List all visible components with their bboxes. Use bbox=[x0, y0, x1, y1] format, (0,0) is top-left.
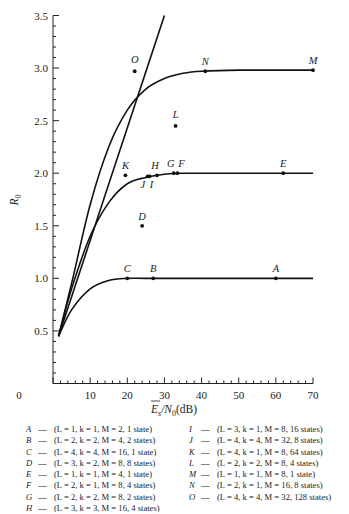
legend-key: O bbox=[189, 492, 201, 503]
point-label-O: O bbox=[131, 54, 139, 65]
legend-item-B: B—(L = 2, k = 2, M = 4, 2 states) bbox=[26, 435, 160, 446]
legend-text: (L = 4, k = 1, M = 8, 64 states) bbox=[217, 447, 323, 458]
point-label-N: N bbox=[201, 56, 210, 67]
legend-item-E: E—(L = 1, k = 1, M = 4, 1 state) bbox=[26, 469, 160, 480]
x-tick-label: 60 bbox=[270, 389, 282, 401]
legend-item-L: L—(L = 2, k = 2, M = 8, 4 states) bbox=[189, 458, 331, 469]
legend-text: (L = 2, k = 1, M = 16, 8 states) bbox=[217, 480, 323, 491]
legend-key: C bbox=[26, 447, 38, 458]
y-tick-label: 3.0 bbox=[34, 62, 48, 74]
x-tick-label: 50 bbox=[233, 389, 245, 401]
legend-item-N: N—(L = 2, k = 1, M = 16, 8 states) bbox=[189, 480, 331, 491]
legend-text: (L = 4, k = 4, M = 32, 128 states) bbox=[217, 492, 331, 503]
point-A bbox=[274, 276, 278, 280]
legend-key: H bbox=[26, 503, 38, 514]
point-label-C: C bbox=[124, 263, 132, 274]
legend-key: I bbox=[189, 424, 201, 435]
legend-text: (L = 1, k = 1, M = 8, 1 state) bbox=[217, 469, 315, 480]
legend-dash: — bbox=[38, 424, 54, 435]
legend-dash: — bbox=[38, 447, 54, 458]
point-J bbox=[146, 174, 150, 178]
x-axis-title: Es/N0(dB) bbox=[150, 401, 197, 418]
data-points: ABCDEFGHIJKLMNO bbox=[121, 54, 319, 280]
point-K bbox=[124, 173, 128, 177]
curve-2 bbox=[59, 173, 313, 336]
x-tick-label: 20 bbox=[122, 389, 134, 401]
x-tick-label: 30 bbox=[159, 389, 171, 401]
legend-item-I: I—(L = 3, k = 1, M = 8, 16 states) bbox=[189, 424, 331, 435]
point-F bbox=[176, 171, 180, 175]
legend-dash: — bbox=[201, 424, 217, 435]
tick-labels: 0.51.01.52.02.53.03.5010203040506070 bbox=[16, 10, 319, 402]
y-tick-label: 0.5 bbox=[34, 325, 48, 337]
point-O bbox=[133, 69, 137, 73]
point-label-G: G bbox=[167, 158, 175, 169]
legend-right: I—(L = 3, k = 1, M = 8, 16 states)J—(L =… bbox=[189, 424, 331, 503]
y-tick-label: 1.5 bbox=[34, 220, 48, 232]
legend-text: (L = 2, k = 2, M = 8, 4 states) bbox=[217, 458, 318, 469]
legend-dash: — bbox=[201, 469, 217, 480]
legend-item-J: J—(L = 4, k = 4, M = 32, 8 states) bbox=[189, 435, 331, 446]
point-E bbox=[281, 171, 285, 175]
legend-text: (L = 2, k = 2, M = 8, 2 states) bbox=[54, 492, 155, 503]
point-label-A: A bbox=[272, 263, 280, 274]
legend-item-D: D—(L = 3, k = 2, M = 8, 8 states) bbox=[26, 458, 160, 469]
y-tick-label: 1.0 bbox=[34, 272, 48, 284]
legend-key: L bbox=[189, 458, 201, 469]
legend-key: N bbox=[189, 480, 201, 491]
legend-text: (L = 4, k = 4, M = 16, 1 state) bbox=[54, 447, 156, 458]
svg-text:Es/N0(dB): Es/N0(dB) bbox=[150, 403, 197, 418]
x-tick-label: 40 bbox=[196, 389, 208, 401]
point-label-M: M bbox=[308, 55, 319, 66]
point-label-E: E bbox=[279, 158, 287, 169]
legend-key: D bbox=[26, 458, 38, 469]
point-M bbox=[311, 68, 315, 72]
legend-text: (L = 3, k = 1, M = 8, 16 states) bbox=[217, 424, 323, 435]
point-H bbox=[155, 173, 159, 177]
legend-dash: — bbox=[38, 458, 54, 469]
y-tick-label: 2.5 bbox=[34, 115, 48, 127]
point-label-K: K bbox=[121, 160, 130, 171]
legend-item-M: M—(L = 1, k = 1, M = 8, 1 state) bbox=[189, 469, 331, 480]
legend-text: (L = 4, k = 4, M = 32, 8 states) bbox=[217, 435, 323, 446]
point-label-B: B bbox=[150, 263, 157, 274]
legend-item-A: A—(L = 1, k = 1, M = 2, 1 state) bbox=[26, 424, 160, 435]
legend-text: (L = 1, k = 1, M = 2, 1 state) bbox=[54, 424, 152, 435]
legend-item-F: F—(L = 2, k = 1, M = 8, 4 states) bbox=[26, 480, 160, 491]
legend-left: A—(L = 1, k = 1, M = 2, 1 state)B—(L = 2… bbox=[26, 424, 160, 514]
point-D bbox=[140, 224, 144, 228]
curve-3 bbox=[59, 278, 313, 336]
point-label-H: H bbox=[150, 160, 160, 171]
curves bbox=[59, 16, 313, 337]
y-tick-label: 3.5 bbox=[34, 10, 48, 22]
point-C bbox=[125, 276, 129, 280]
legend-item-K: K—(L = 4, k = 1, M = 8, 64 states) bbox=[189, 447, 331, 458]
chart-plot: 0.51.01.52.02.53.03.5010203040506070 ABC… bbox=[0, 0, 349, 420]
legend-dash: — bbox=[38, 503, 54, 514]
point-B bbox=[151, 276, 155, 280]
legend-item-H: H—(L = 3, k = 3, M = 16, 4 states) bbox=[26, 503, 160, 514]
y-axis-title: R0 bbox=[8, 194, 23, 206]
legend-item-G: G—(L = 2, k = 2, M = 8, 2 states) bbox=[26, 492, 160, 503]
legend-dash: — bbox=[201, 458, 217, 469]
point-label-D: D bbox=[137, 211, 146, 222]
legend-text: (L = 2, k = 2, M = 4, 2 states) bbox=[54, 435, 155, 446]
legend-text: (L = 2, k = 1, M = 8, 4 states) bbox=[54, 480, 155, 491]
legend-text: (L = 3, k = 3, M = 16, 4 states) bbox=[54, 503, 160, 514]
legend-text: (L = 1, k = 1, M = 4, 1 state) bbox=[54, 469, 152, 480]
legend-dash: — bbox=[38, 469, 54, 480]
point-G bbox=[172, 171, 176, 175]
point-label-J: J bbox=[140, 179, 146, 190]
legend-dash: — bbox=[38, 435, 54, 446]
curve-1 bbox=[59, 70, 313, 336]
x-tick-label: 70 bbox=[308, 389, 320, 401]
legend-key: E bbox=[26, 469, 38, 480]
point-label-I: I bbox=[149, 179, 154, 190]
legend-key: J bbox=[189, 435, 201, 446]
legend-dash: — bbox=[201, 480, 217, 491]
point-label-L: L bbox=[172, 109, 179, 120]
legend-key: B bbox=[26, 435, 38, 446]
legend-key: A bbox=[26, 424, 38, 435]
legend-text: (L = 3, k = 2, M = 8, 8 states) bbox=[54, 458, 155, 469]
legend-item-O: O—(L = 4, k = 4, M = 32, 128 states) bbox=[189, 492, 331, 503]
